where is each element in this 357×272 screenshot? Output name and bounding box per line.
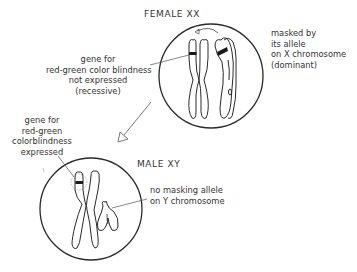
label-line: (recessive) [46,86,150,97]
female-cell-circle [159,24,263,128]
label-line: (dominant) [271,60,346,71]
label-line: no masking allele [150,185,225,196]
female-title: FEMALE XX [144,9,200,19]
gene-band-expressed [76,181,84,184]
inheritance-arrow [118,102,151,142]
curved-arrow-icon [197,28,218,33]
female-recessive-gene-label: gene for red-green color blindness not e… [46,54,150,96]
male-no-masking-label: no masking allele on Y chromosome [150,185,225,206]
label-line: on Y chromosome [150,196,225,207]
label-line: colorblindness [10,136,74,147]
female-dominant-allele-label: masked by its allele on X chromosome (do… [271,28,346,70]
label-line: expressed [10,147,74,158]
label-line: masked by [271,28,346,39]
label-line: red-green color blindness [46,65,150,76]
label-line: gene for [46,54,150,65]
gene-band-recessive [189,52,197,55]
curved-arrowhead-icon [195,29,199,34]
stray-mark [43,168,44,172]
male-expressed-gene-label: gene for red-green colorblindness expres… [10,115,74,157]
female-cell [150,24,263,128]
male-title: MALE XY [137,159,180,169]
male-y-chromosome [98,201,119,230]
label-line: gene for [10,115,74,126]
male-cell [40,156,147,260]
label-line: on X chromosome [271,49,346,60]
label-line: red-green [10,126,74,137]
label-line: its allele [271,39,346,50]
female-left-leader-line [150,55,189,65]
arrowhead-icon [118,132,128,142]
female-x-chromosome-recessive [189,40,208,119]
gene-band-dominant [217,47,228,56]
label-line: not expressed [46,75,150,86]
male-left-leader-line [58,156,74,177]
